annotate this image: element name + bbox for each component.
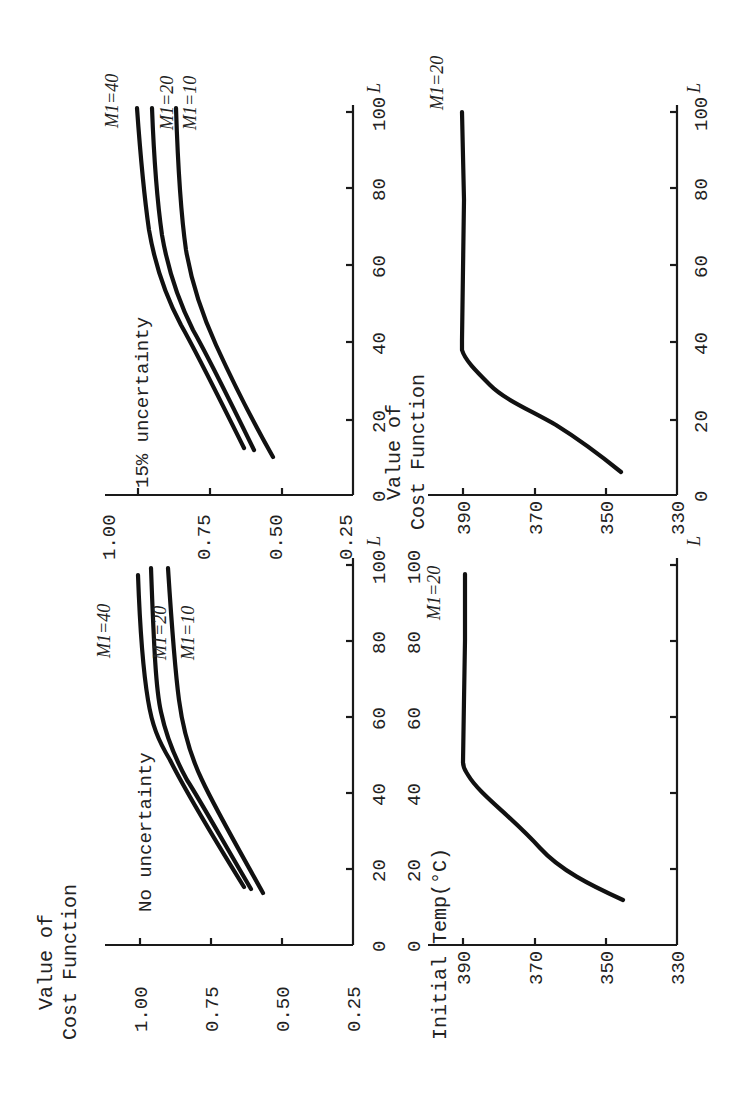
y-tick-label: 390 bbox=[454, 951, 476, 985]
x-tick-label: 60 bbox=[369, 255, 391, 278]
y-tick-label: 350 bbox=[597, 501, 619, 535]
x-tick-label: 0 bbox=[691, 491, 713, 502]
y-tick-label: 0.50 bbox=[273, 986, 295, 1032]
y-tick-label: 0.25 bbox=[336, 514, 358, 560]
y-tick-label: 0.75 bbox=[202, 986, 224, 1032]
x-tick-label: 20 bbox=[691, 410, 713, 433]
x-tick-label: 0 bbox=[404, 941, 426, 952]
l-axis-label: L bbox=[364, 83, 384, 94]
panel-title-line1: Value of bbox=[383, 404, 406, 500]
x-tick-label: 40 bbox=[404, 783, 426, 806]
y-tick-label: 0.50 bbox=[266, 514, 288, 560]
y-tick-label: 1.00 bbox=[131, 986, 153, 1032]
l-axis-label: L bbox=[364, 536, 384, 547]
panel-cost-15pct-uncertainty: 1.00 0.75 0.50 0.25 0 20 40 60 80 100 L … bbox=[99, 74, 430, 560]
x-tick-label: 40 bbox=[369, 332, 391, 355]
l-axis-label: L bbox=[684, 536, 704, 547]
x-tick-label: 80 bbox=[369, 178, 391, 201]
x-tick-label: 100 bbox=[369, 97, 391, 131]
x-tick-label: 40 bbox=[369, 783, 391, 806]
series-label-m1-20: M1=20 bbox=[424, 566, 444, 621]
x-tick-label: 60 bbox=[369, 707, 391, 730]
y-tick-label: 390 bbox=[454, 501, 476, 535]
y-tick-label: 370 bbox=[526, 951, 548, 985]
y-tick-label: 0.75 bbox=[194, 514, 216, 560]
y-tick-label: 370 bbox=[526, 501, 548, 535]
x-tick-label: 100 bbox=[691, 97, 713, 131]
figure: 1.00 0.75 0.50 0.25 0 20 40 60 80 100 L … bbox=[0, 0, 754, 1094]
curve-m1-20 bbox=[462, 112, 621, 472]
panel-cost-no-uncertainty: 1.00 0.75 0.50 0.25 0 20 40 60 80 100 L … bbox=[35, 536, 391, 1040]
series-label-m1-20: M1=20 bbox=[157, 76, 177, 131]
panel-title-line1: Value of bbox=[35, 914, 58, 1010]
y-tick-label: 0.25 bbox=[344, 986, 366, 1032]
curve-m1-20 bbox=[463, 574, 623, 900]
x-tick-label: 20 bbox=[369, 859, 391, 882]
x-tick-label: 0 bbox=[369, 941, 391, 952]
panel-title: Initial Temp(°C) bbox=[429, 848, 452, 1040]
series-label-m1-20: M1=20 bbox=[427, 56, 447, 111]
x-tick-label: 20 bbox=[404, 859, 426, 882]
panel-title-line2: Cost Function bbox=[407, 374, 430, 530]
x-tick-label: 60 bbox=[691, 255, 713, 278]
curve-m1-20 bbox=[152, 108, 254, 450]
y-tick-label: 330 bbox=[668, 501, 690, 535]
l-axis-label: L bbox=[684, 83, 704, 94]
series-label-m1-20: M1=20 bbox=[150, 606, 170, 661]
y-tick-label: 1.00 bbox=[99, 514, 121, 560]
y-tick-label: 330 bbox=[668, 951, 690, 985]
x-tick-label: 80 bbox=[691, 178, 713, 201]
x-tick-label: 80 bbox=[404, 631, 426, 654]
annotation-no-uncertainty: No uncertainty bbox=[135, 752, 157, 912]
panel-temp-no-uncertainty: 390 370 350 330 0 20 40 60 80 100 L Init… bbox=[404, 536, 704, 1040]
panel-temp-15pct-uncertainty: 390 370 350 330 0 20 40 60 80 100 L M1=2… bbox=[427, 56, 713, 535]
x-tick-label: 100 bbox=[404, 550, 426, 584]
x-tick-label: 100 bbox=[369, 550, 391, 584]
series-label-m1-10: M1=10 bbox=[180, 76, 200, 131]
x-tick-label: 80 bbox=[369, 631, 391, 654]
x-tick-label: 60 bbox=[404, 707, 426, 730]
panel-title-line2: Cost Function bbox=[59, 884, 82, 1040]
series-label-m1-40: M1=40 bbox=[102, 74, 122, 129]
series-label-m1-40: M1=40 bbox=[94, 604, 114, 659]
x-tick-label: 40 bbox=[691, 332, 713, 355]
y-tick-label: 350 bbox=[597, 951, 619, 985]
series-label-m1-10: M1=10 bbox=[178, 606, 198, 661]
annotation-15pct-uncertainty: 15% uncertainty bbox=[132, 317, 154, 488]
